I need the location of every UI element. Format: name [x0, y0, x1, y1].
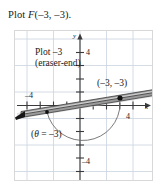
plot-graphics	[15, 31, 153, 181]
pencil-turtle	[15, 90, 153, 121]
pencil-tip-point-marker	[45, 110, 49, 114]
plotted-point-marker	[117, 95, 122, 100]
figure-caption: Plot F(–3, –3).	[8, 9, 71, 21]
caption-prefix: Plot	[8, 9, 28, 20]
coordinate-plot: Plot –3 (eraser-end) (–3, –3) (θ = –3) 4…	[14, 30, 153, 181]
x-axis-arrowhead	[145, 103, 151, 108]
y-axis-arrowhead	[77, 34, 82, 40]
caption-arguments: (–3, –3).	[35, 9, 72, 20]
